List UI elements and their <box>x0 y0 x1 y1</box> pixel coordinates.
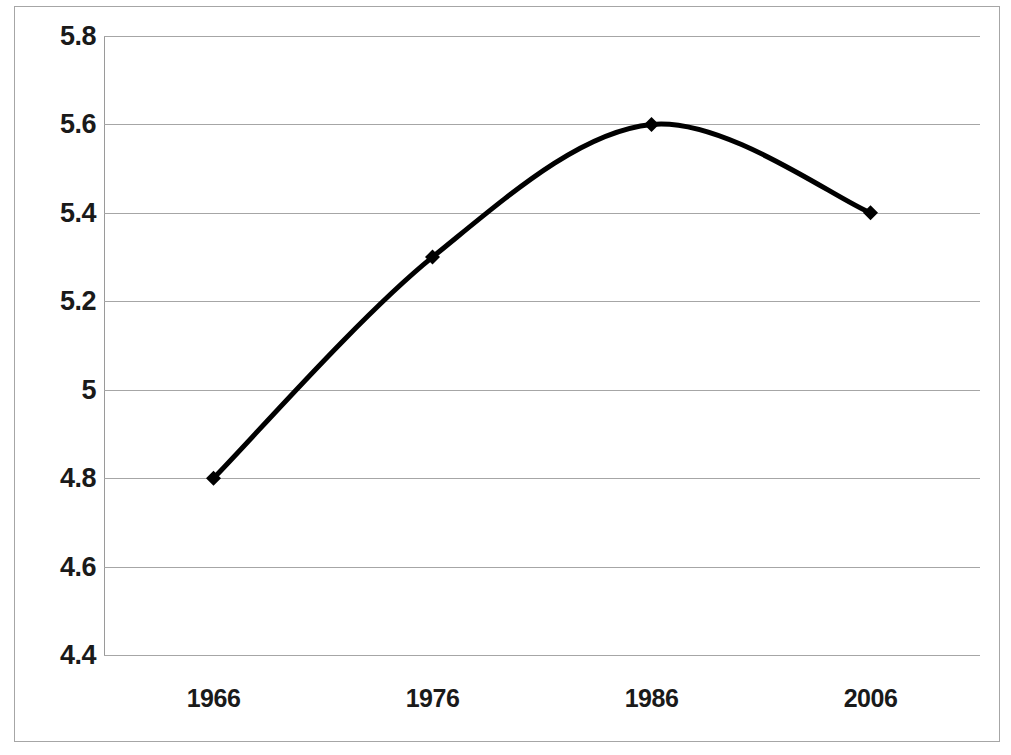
gridline <box>104 36 980 37</box>
x-tick-label: 1986 <box>625 686 679 711</box>
gridline <box>104 655 980 656</box>
y-tick-label: 5.8 <box>10 23 96 50</box>
chart-root: 5.85.65.45.254.84.64.4 1966197619862006 <box>0 0 1011 755</box>
gridline <box>104 567 980 568</box>
x-tick-label: 2006 <box>844 686 898 711</box>
y-tick-label: 4.8 <box>10 465 96 492</box>
y-tick-label: 4.6 <box>10 553 96 580</box>
y-axis-tick-labels: 5.85.65.45.254.84.64.4 <box>0 0 96 755</box>
gridline <box>104 478 980 479</box>
y-tick-label: 5.6 <box>10 111 96 138</box>
y-tick-label: 5 <box>10 376 96 403</box>
gridline <box>104 390 980 391</box>
x-tick-label: 1966 <box>187 686 241 711</box>
x-tick-label: 1976 <box>406 686 460 711</box>
y-tick-label: 4.4 <box>10 642 96 669</box>
gridline <box>104 124 980 125</box>
y-tick-label: 5.2 <box>10 288 96 315</box>
plot-area <box>104 36 980 655</box>
gridline <box>104 213 980 214</box>
gridline <box>104 301 980 302</box>
y-tick-label: 5.4 <box>10 199 96 226</box>
